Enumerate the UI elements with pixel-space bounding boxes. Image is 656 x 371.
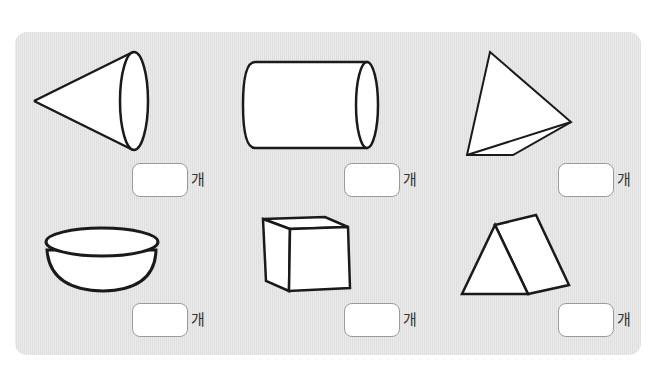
cone-icon	[30, 48, 155, 154]
triangular-prism-unit-label: 개	[617, 310, 631, 330]
triangular-prism-answer-input[interactable]	[558, 303, 614, 337]
cube-answer-input[interactable]	[344, 303, 400, 337]
cube-icon	[260, 212, 355, 296]
cylinder-unit-label: 개	[403, 170, 417, 190]
cone-unit-label: 개	[191, 170, 205, 190]
cone-answer-input[interactable]	[132, 163, 188, 197]
triangular-pyramid-icon	[462, 48, 577, 158]
hemisphere-unit-label: 개	[191, 310, 205, 330]
triangular-prism-icon	[458, 210, 573, 300]
triangular-pyramid-unit-label: 개	[617, 170, 631, 190]
hemisphere-answer-input[interactable]	[132, 303, 188, 337]
triangular-pyramid-answer-input[interactable]	[558, 163, 614, 197]
cube-unit-label: 개	[403, 310, 417, 330]
hemisphere-icon	[40, 222, 165, 294]
cylinder-answer-input[interactable]	[344, 163, 400, 197]
cylinder-icon	[240, 56, 380, 152]
